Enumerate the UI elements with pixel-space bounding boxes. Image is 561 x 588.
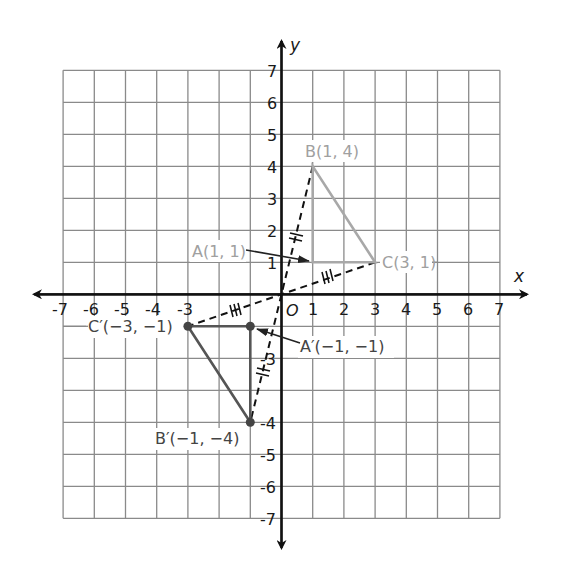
pointer-arrow-a xyxy=(246,250,309,261)
label-b-prime: B′(−1, −4) xyxy=(155,429,239,448)
label-b: B(1, 4) xyxy=(305,142,359,161)
label-c: C(3, 1) xyxy=(382,253,436,272)
triple-tick-marks-right xyxy=(322,269,333,284)
point-a-prime xyxy=(246,322,255,331)
x-tick-label: -7 xyxy=(52,300,68,319)
x-tick-label: 1 xyxy=(308,300,318,319)
origin-label: O xyxy=(286,301,299,320)
y-tick-label: -6 xyxy=(260,478,276,497)
y-axis-label: y xyxy=(289,35,301,55)
x-tick-label: 3 xyxy=(370,300,380,319)
y-tick-label: 2 xyxy=(267,222,277,241)
x-tick-label: 4 xyxy=(401,300,411,319)
y-tick-label: 4 xyxy=(267,158,277,177)
x-tick-label: 6 xyxy=(463,300,473,319)
pointer-arrow-a-prime xyxy=(257,329,300,343)
point-b-prime xyxy=(246,418,255,427)
label-a: A(1, 1) xyxy=(192,242,246,261)
y-tick-label: -5 xyxy=(260,446,276,465)
x-tick-label: 5 xyxy=(432,300,442,319)
y-tick-label: -7 xyxy=(260,510,276,529)
y-tick-labels: 7 6 5 4 3 2 1 -3 -4 -5 -6 -7 xyxy=(260,62,277,529)
y-tick-label: 6 xyxy=(267,94,277,113)
y-tick-label: -3 xyxy=(260,350,276,369)
point-c-prime xyxy=(183,322,192,331)
x-tick-label: -3 xyxy=(177,300,193,319)
coordinate-plane: x y O -7 -6 -5 -4 -3 1 2 3 4 5 6 7 7 6 5… xyxy=(0,0,561,588)
x-axis-label: x xyxy=(513,266,525,286)
y-tick-label: 1 xyxy=(267,254,277,273)
double-tick-marks-lower xyxy=(256,368,270,376)
y-tick-label: 5 xyxy=(267,126,277,145)
x-tick-label: 7 xyxy=(494,300,504,319)
y-tick-label: 7 xyxy=(267,62,277,81)
label-a-prime: A′(−1, −1) xyxy=(300,337,384,356)
label-c-prime: C′(−3, −1) xyxy=(88,317,173,336)
triple-tick-marks-left xyxy=(230,303,241,317)
y-tick-label: -4 xyxy=(260,414,276,433)
x-tick-label: 2 xyxy=(339,300,349,319)
y-tick-label: 3 xyxy=(267,190,277,209)
